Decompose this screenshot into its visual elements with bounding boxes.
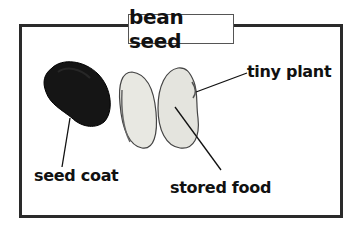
label-stored-food: stored food	[170, 178, 271, 197]
label-seed-coat: seed coat	[34, 166, 118, 185]
label-tiny-plant: tiny plant	[247, 62, 331, 81]
seed-coat-pointer	[62, 118, 70, 167]
tiny-plant-pointer	[196, 73, 247, 92]
bean-half-left	[120, 72, 157, 148]
bean-half-right	[158, 68, 198, 148]
diagram-title: bean seed	[128, 14, 234, 44]
seed-coat-bean	[44, 62, 110, 127]
